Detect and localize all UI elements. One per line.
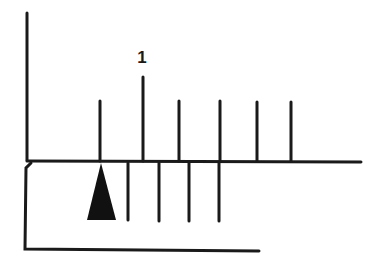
vernier-scale-ticks: [128, 163, 219, 221]
vernier-scale-diagram: 1: [0, 0, 383, 265]
triangle-pointer-icon: [87, 163, 116, 220]
vernier-scale-frame[interactable]: [25, 163, 259, 251]
main-scale-label: 1: [137, 48, 146, 67]
main-scale-baseline: [27, 161, 361, 162]
main-scale-ticks: [100, 77, 291, 161]
